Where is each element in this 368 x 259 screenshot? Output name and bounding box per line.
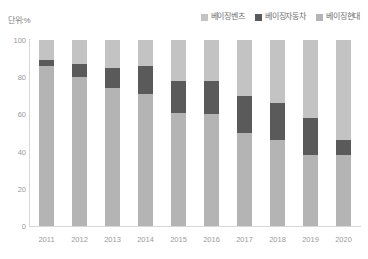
legend-label: 베이징현대 <box>326 13 360 21</box>
x-axis-tick-label: 2015 <box>170 235 187 244</box>
chart-legend: 베이징벤츠베이징자동차베이징현대 <box>201 13 360 21</box>
bar-segment <box>303 155 318 226</box>
y-axis-tick-label: 60 <box>18 110 26 119</box>
bar-segment <box>270 40 285 103</box>
x-axis-tick-label: 2014 <box>137 235 154 244</box>
bar-segment <box>72 40 87 64</box>
bar-segment <box>138 94 153 226</box>
bar-segment <box>39 40 54 60</box>
x-axis-tick-label: 2011 <box>38 235 54 244</box>
bar-segment <box>270 103 285 140</box>
stacked-bar <box>336 40 351 226</box>
bar-segment <box>105 68 120 88</box>
bar-column: 2017 <box>228 40 261 226</box>
x-axis-tick-label: 2012 <box>71 235 88 244</box>
stacked-bar <box>303 40 318 226</box>
bar-column: 2020 <box>327 40 360 226</box>
bar-segment <box>204 114 219 226</box>
stacked-bar <box>39 40 54 226</box>
bar-segment <box>171 81 186 113</box>
bar-segment <box>72 64 87 77</box>
bar-segment <box>237 133 252 226</box>
stacked-bar <box>72 40 87 226</box>
bar-segment <box>105 40 120 68</box>
stacked-bar <box>171 40 186 226</box>
unit-label: 단위:% <box>8 14 31 25</box>
bar-segment <box>39 66 54 226</box>
bar-segment <box>105 88 120 226</box>
bar-column: 2013 <box>96 40 129 226</box>
bar-segment <box>270 140 285 226</box>
y-axis-tick-label: 100 <box>13 36 26 45</box>
bar-segment <box>138 40 153 66</box>
legend-swatch-hyundai <box>316 14 323 21</box>
y-axis-tick-label: 0 <box>22 222 26 231</box>
x-axis-tick-label: 2018 <box>269 235 286 244</box>
stacked-bar <box>270 40 285 226</box>
bar-segment <box>138 66 153 94</box>
x-axis-tick-label: 2016 <box>203 235 220 244</box>
bar-segment <box>204 81 219 114</box>
legend-swatch-benz <box>201 14 208 21</box>
bar-segment <box>303 118 318 155</box>
bar-segment <box>171 113 186 226</box>
bar-column: 2015 <box>162 40 195 226</box>
bar-column: 2011 <box>30 40 63 226</box>
x-axis-line <box>29 226 361 227</box>
bar-column: 2019 <box>294 40 327 226</box>
y-axis-tick-label: 80 <box>18 73 26 82</box>
legend-item: 베이징벤츠 <box>201 13 245 21</box>
bar-segment <box>336 40 351 140</box>
bar-column: 2014 <box>129 40 162 226</box>
x-axis-tick-label: 2019 <box>302 235 319 244</box>
stacked-bar <box>105 40 120 226</box>
bar-group: 2011201220132014201520162017201820192020 <box>30 40 360 226</box>
legend-item: 베이징자동차 <box>255 13 305 21</box>
x-axis-tick-label: 2013 <box>104 235 121 244</box>
plot-area: 100806040200 201120122013201420152016201… <box>30 40 360 226</box>
legend-swatch-automotive <box>255 14 262 21</box>
legend-label: 베이징자동차 <box>265 13 305 21</box>
bar-column: 2016 <box>195 40 228 226</box>
x-axis-tick-label: 2020 <box>335 235 352 244</box>
bar-segment <box>336 140 351 155</box>
stacked-bar-chart: 단위:% 베이징벤츠베이징자동차베이징현대 100806040200 20112… <box>0 0 368 259</box>
bar-column: 2012 <box>63 40 96 226</box>
bar-segment <box>171 40 186 81</box>
bar-column: 2018 <box>261 40 294 226</box>
bar-segment <box>237 96 252 133</box>
bar-segment <box>336 155 351 226</box>
bar-segment <box>204 40 219 81</box>
stacked-bar <box>138 40 153 226</box>
legend-label: 베이징벤츠 <box>211 13 245 21</box>
y-axis-tick-label: 20 <box>18 184 26 193</box>
stacked-bar <box>237 40 252 226</box>
stacked-bar <box>204 40 219 226</box>
bar-segment <box>72 77 87 226</box>
bar-segment <box>303 40 318 118</box>
legend-item: 베이징현대 <box>316 13 360 21</box>
x-axis-tick-label: 2017 <box>236 235 253 244</box>
bar-segment <box>237 40 252 96</box>
y-axis-tick-label: 40 <box>18 147 26 156</box>
